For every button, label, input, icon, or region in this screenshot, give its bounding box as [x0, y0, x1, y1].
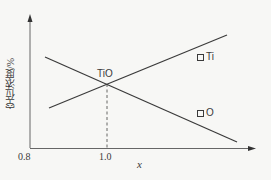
y-axis-label: 空位浓度/%: [6, 58, 16, 109]
x-tick-0-8: 0.8: [18, 152, 31, 162]
intersection-label-tio: TiO: [97, 69, 113, 79]
y-axis-arrow-icon: [28, 14, 33, 22]
chart-plot-area: [0, 0, 271, 180]
legend-label-o: O: [206, 108, 214, 118]
x-tick-1-0: 1.0: [99, 152, 112, 162]
square-marker-icon: [197, 110, 204, 117]
legend-item-o: O: [197, 108, 214, 118]
legend-label-ti: Ti: [206, 52, 214, 62]
square-marker-icon: [197, 54, 204, 61]
x-axis-label: x: [137, 159, 142, 170]
x-axis-arrow-icon: [248, 146, 256, 151]
series-line-ti: [49, 35, 227, 108]
legend-item-ti: Ti: [197, 52, 214, 62]
chart-canvas: 空位浓度/% 0.8 1.0 x TiO Ti O: [0, 0, 271, 180]
